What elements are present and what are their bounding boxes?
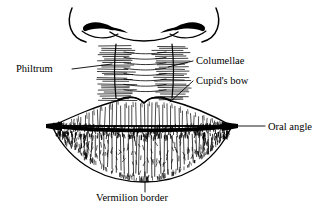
oral-fissure-feather	[160, 128, 161, 132]
lower-lip-shadow	[214, 134, 215, 137]
figure-background	[0, 0, 332, 214]
lip-anatomy-figure: PhiltrumColumellaeCupid's bowOral angleV…	[0, 0, 332, 214]
label-cupids-bow: Cupid's bow	[196, 75, 249, 86]
lower-lip-shadow	[117, 133, 118, 137]
philtrum-hatch	[98, 60, 133, 61]
lower-lip-shadow	[194, 131, 195, 135]
oral-fissure-feather	[188, 130, 189, 134]
label-philtrum: Philtrum	[16, 63, 53, 74]
philtrum-hatch	[98, 69, 128, 70]
oral-fissure-feather	[136, 129, 137, 131]
columellae-ridges	[159, 67, 188, 68]
oral-fissure-feather	[87, 129, 88, 133]
label-columellae: Columellae	[196, 55, 245, 66]
diagram-canvas: PhiltrumColumellaeCupid's bowOral angleV…	[0, 0, 332, 214]
lower-lip-shadow	[187, 135, 188, 138]
oral-fissure-feather	[98, 130, 99, 132]
oral-fissure-feather	[86, 127, 87, 129]
upper-lip-hatch	[112, 104, 113, 128]
oral-fissure-feather	[75, 128, 76, 131]
columellae-ridges	[157, 75, 184, 76]
lower-lip-shadow	[81, 134, 82, 137]
lower-lip-shadow	[62, 136, 63, 139]
lower-lip-hatch	[155, 135, 156, 177]
lower-lip-shadow	[72, 132, 73, 134]
oral-fissure-feather	[178, 126, 179, 130]
lower-lip-shadow	[207, 143, 208, 145]
lower-lip-shadow	[81, 144, 82, 148]
label-oral-angle: Oral angle	[268, 121, 312, 132]
lower-lip-shadow	[177, 132, 178, 134]
lower-lip-shadow	[84, 140, 85, 144]
label-vermilion-border: Vermilion border	[96, 192, 169, 203]
lower-lip-shadow	[153, 137, 154, 141]
oral-fissure-feather	[214, 128, 215, 130]
